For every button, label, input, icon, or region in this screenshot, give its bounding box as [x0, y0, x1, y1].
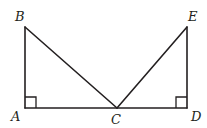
label-e: E — [187, 9, 198, 24]
right-angle-marker-d — [176, 97, 187, 108]
label-b: B — [14, 9, 25, 24]
label-a: A — [10, 109, 20, 124]
right-angle-marker-a — [25, 97, 36, 108]
label-c: C — [111, 112, 121, 127]
segment-ce — [117, 27, 187, 108]
label-d: D — [190, 109, 202, 124]
segment-bc — [25, 27, 117, 108]
diagram-svg: B A C D E — [0, 0, 207, 128]
geometry-diagram: B A C D E — [0, 0, 207, 128]
